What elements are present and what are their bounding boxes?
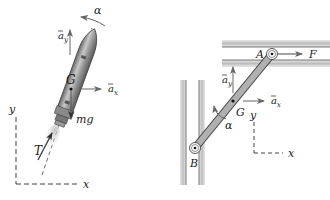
dynamics-diagram: y x G mg T a y: [0, 0, 330, 200]
rocket-panel: y x G mg T a y: [8, 4, 118, 191]
svg-text:y: y: [63, 36, 69, 44]
ax-label: a x: [108, 83, 118, 97]
angular-acceleration-arrow: [81, 17, 105, 26]
center-of-mass-dot: [231, 99, 234, 102]
mg-label: mg: [76, 113, 93, 126]
y-axis-label: y: [8, 103, 16, 116]
alpha-label: α: [94, 4, 102, 17]
ay-label: a y: [222, 74, 233, 88]
ay-label: a y: [58, 30, 69, 44]
svg-text:x: x: [114, 89, 118, 97]
pin-B: [190, 143, 201, 154]
reference-axes-right: y x: [249, 109, 295, 160]
B-label: B: [189, 157, 198, 170]
x-axis-label: x: [288, 147, 295, 160]
svg-text:x: x: [277, 101, 281, 109]
alpha-label: α: [225, 119, 233, 132]
link-panel: A F B G a y a x α: [180, 40, 330, 185]
G-label: G: [66, 73, 76, 87]
T-label: T: [34, 144, 43, 158]
y-axis-label: y: [249, 109, 257, 122]
ax-label: a x: [271, 95, 281, 109]
x-axis-label: x: [83, 178, 90, 191]
G-label: G: [236, 106, 245, 119]
pin-A: [267, 49, 278, 60]
A-label: A: [255, 48, 264, 61]
svg-text:y: y: [227, 80, 233, 88]
F-label: F: [308, 48, 317, 61]
